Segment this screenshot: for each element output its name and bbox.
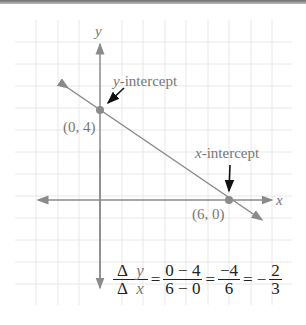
delta-fraction: Δ y Δ x <box>113 262 148 297</box>
point-a-label: (0, 4) <box>63 120 96 135</box>
fraction-2: −4 6 <box>218 262 240 297</box>
point-x-intercept <box>225 196 233 204</box>
y-intercept-label: y-intercept <box>113 74 177 89</box>
point-b-label: (6, 0) <box>192 207 225 222</box>
x-intercept-arrow <box>229 165 230 191</box>
x-intercept-label: x-intercept <box>195 146 259 161</box>
fraction-3: 2 3 <box>269 262 282 297</box>
x-axis-label: x <box>276 193 283 208</box>
fraction-1: 0 − 4 6 − 0 <box>163 262 202 297</box>
point-y-intercept <box>96 106 104 114</box>
slope-equation: Δ y Δ x = 0 − 4 6 − 0 = −4 6 = − 2 3 <box>112 262 283 297</box>
y-axis-label: y <box>95 24 102 39</box>
